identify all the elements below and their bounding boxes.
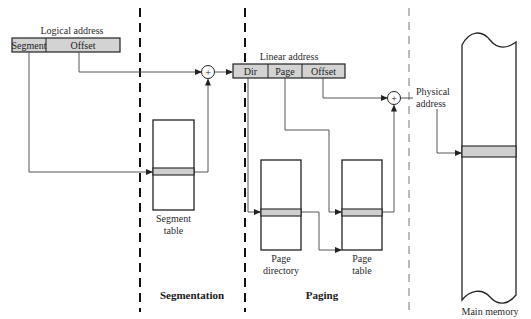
physical-address-label-line1: Physical xyxy=(416,86,450,97)
main-memory: Main memory xyxy=(462,33,519,317)
logical-address-title: Logical address xyxy=(40,25,103,36)
linear-address-title: Linear address xyxy=(260,51,319,62)
segmentation-adder: + xyxy=(202,66,215,79)
page-field: Page xyxy=(275,66,295,77)
linear-offset-field: Offset xyxy=(311,66,336,77)
dir-field: Dir xyxy=(244,66,258,77)
page-directory-label-line1: Page xyxy=(271,253,291,264)
logical-address: Logical address Segment Offset xyxy=(12,25,121,52)
segment-table-to-adder-wire xyxy=(194,80,208,173)
main-memory-label: Main memory xyxy=(462,306,519,317)
page-table-to-adder2-wire xyxy=(382,106,394,213)
dir-to-page-directory-wire xyxy=(248,78,260,212)
segment-table: Segment table xyxy=(153,120,194,236)
segment-table-label-line1: Segment xyxy=(156,213,191,224)
physical-address-to-memory-wire xyxy=(437,109,461,153)
page-directory-to-page-table-wire xyxy=(301,212,341,250)
page-table-label-line2: table xyxy=(352,265,372,276)
segmentation-section-label: Segmentation xyxy=(160,289,224,301)
plus-icon: + xyxy=(391,93,397,104)
segment-field: Segment xyxy=(12,40,47,51)
physical-address-label-line2: address xyxy=(416,98,446,109)
linear-address: Linear address Dir Page Offset xyxy=(233,51,345,78)
segment-descriptor-entry xyxy=(153,168,194,175)
segment-table-label-line2: table xyxy=(164,225,184,236)
paging-section-label: Paging xyxy=(306,289,339,301)
page-table: Page table xyxy=(342,160,382,276)
offset-to-adder2-wire xyxy=(323,78,387,98)
physical-frame-entry xyxy=(462,146,516,157)
paging-adder: + xyxy=(388,92,401,105)
page-table-entry xyxy=(342,209,382,216)
plus-icon: + xyxy=(205,67,211,78)
address-translation-diagram: Logical address Segment Offset + Segment… xyxy=(0,0,531,319)
page-directory-entry xyxy=(261,209,301,216)
page-table-label-line1: Page xyxy=(352,253,372,264)
segment-to-segment-table-wire xyxy=(29,52,152,172)
offset-field: Offset xyxy=(71,40,96,51)
page-directory: Page directory xyxy=(261,160,301,276)
page-directory-label-line2: directory xyxy=(263,265,299,276)
